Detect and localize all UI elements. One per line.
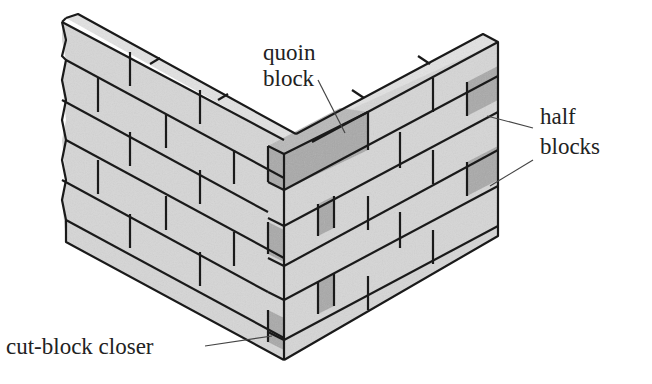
label-quoin-block: quoin block <box>263 40 315 92</box>
label-half-blocks: half blocks <box>540 102 600 162</box>
label-half-line1: half <box>540 102 600 132</box>
label-quoin-line1: quoin <box>263 40 315 66</box>
label-cut-block-closer: cut-block closer <box>6 334 154 360</box>
label-quoin-line2: block <box>263 66 315 92</box>
label-half-line2: blocks <box>540 132 600 162</box>
wall-illustration <box>0 0 652 384</box>
wall-corner-diagram: quoin block half blocks cut-block closer <box>0 0 652 384</box>
